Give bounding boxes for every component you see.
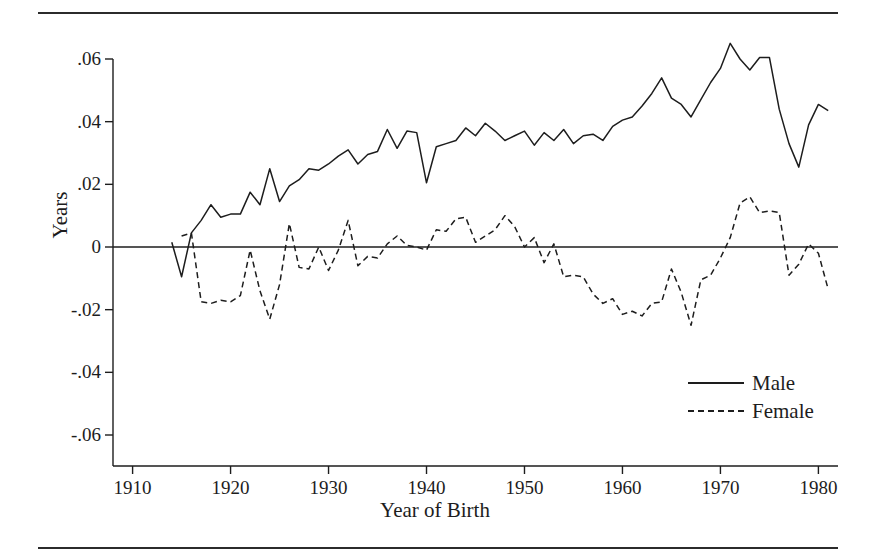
y-tick-label: .06 [39,49,101,68]
figure-container: .06.04.020-.02-.04-.06 19101920193019401… [0,0,870,558]
x-tick-label: 1930 [294,478,364,497]
y-axis-title: Years [45,165,75,265]
legend-label-male: Male [752,370,795,396]
y-tick-label: .04 [39,112,101,131]
x-tick-label: 1960 [587,478,657,497]
x-axis-title: Year of Birth [285,498,585,522]
x-tick-label: 1970 [685,478,755,497]
legend-label-female: Female [752,398,814,424]
x-tick-marks [133,466,819,474]
y-tick-marks [105,59,113,435]
y-tick-label: -.04 [39,362,101,381]
x-tick-label: 1980 [783,478,853,497]
y-tick-label: -.02 [39,300,101,319]
series-line-female [182,197,829,325]
legend-swatch-female-dashed-line [688,410,744,412]
legend-item-male: Male [688,370,848,398]
x-tick-label: 1920 [196,478,266,497]
chart-legend: Male Female [688,370,848,426]
legend-item-female: Female [688,398,848,426]
x-tick-label: 1940 [392,478,462,497]
y-tick-label: -.06 [39,425,101,444]
x-tick-label: 1950 [489,478,559,497]
x-tick-label: 1910 [98,478,168,497]
chart-plot-area [0,0,870,558]
series-line-male [172,43,828,276]
legend-swatch-male-solid-line [688,382,744,384]
